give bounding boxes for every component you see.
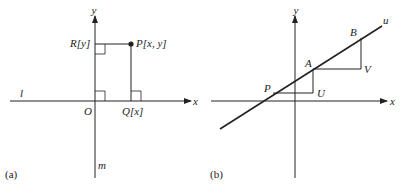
point-q-label: Q[x] [122,105,143,117]
point-u-label: U [317,87,326,99]
line-u [220,26,382,129]
right-angle-mark-r [95,44,105,54]
x-axis-label: x [389,95,395,107]
y-axis-label: y [91,4,97,16]
point-p-label: P [263,82,271,94]
panel-a-caption: (a) [5,168,18,181]
point-v-label: V [364,63,372,75]
right-angle-mark-q [131,91,141,101]
panel-b-caption: (b) [210,168,223,181]
line-l-label: l [20,87,23,99]
diagram-canvas: y x l m O P[x, y] R[y] Q[x] (a) y x u P … [0,0,404,194]
line-u-label: u [383,14,389,26]
panel-b: y x u P A B U V (b) [210,4,395,181]
point-p-label: P[x, y] [135,37,167,49]
y-axis-label: y [293,4,299,16]
x-axis-label: x [192,95,198,107]
point-a-label: A [304,57,312,69]
point-p-dot [128,41,133,46]
line-m-label: m [98,159,106,171]
point-r-label: R[y] [69,37,90,49]
origin-label: O [84,105,92,117]
right-angle-mark-o [95,91,105,101]
point-b-label: B [350,26,357,38]
panel-a: y x l m O P[x, y] R[y] Q[x] (a) [5,4,198,181]
